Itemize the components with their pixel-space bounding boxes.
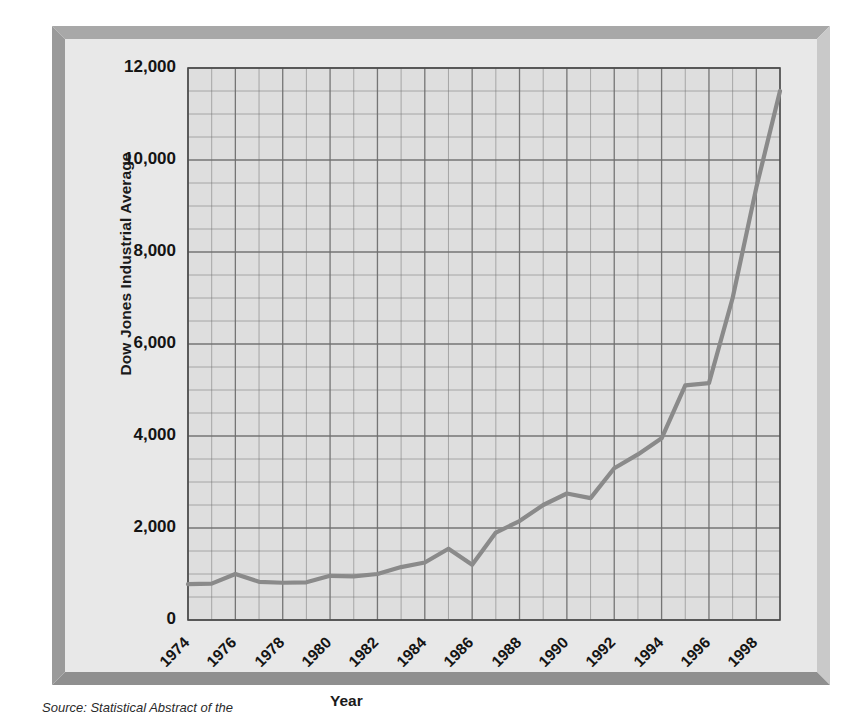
frame-bevel-left: [52, 26, 65, 685]
frame-bevel-bottom: [52, 672, 830, 685]
y-tick-label: 10,000: [56, 149, 176, 169]
x-axis-title: Year: [330, 692, 363, 710]
y-tick-label: 0: [56, 609, 176, 629]
frame-bevel-right: [817, 26, 830, 685]
chart-frame: [52, 26, 830, 685]
source-note: Source: Statistical Abstract of the: [42, 700, 233, 715]
y-tick-label: 4,000: [56, 425, 176, 445]
chart-figure: Dow Jones Industrial Average Year Source…: [0, 0, 848, 716]
y-axis-title: Dow Jones Industrial Average: [117, 134, 135, 394]
y-tick-label: 2,000: [56, 517, 176, 537]
frame-face: [65, 39, 817, 672]
frame-bevel-top: [52, 26, 830, 39]
y-tick-label: 8,000: [56, 241, 176, 261]
y-tick-label: 6,000: [56, 333, 176, 353]
y-tick-label: 12,000: [56, 57, 176, 77]
